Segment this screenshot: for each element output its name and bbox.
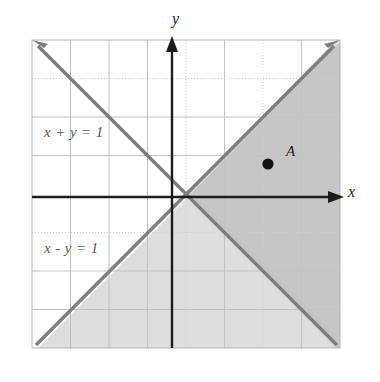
- line-label-x-plus-y: x + y = 1: [44, 124, 104, 141]
- coordinate-plane: [0, 0, 380, 382]
- point-a-label: A: [286, 143, 295, 160]
- line-label-x-minus-y: x - y = 1: [44, 240, 99, 257]
- point-a-marker: [262, 158, 273, 169]
- y-axis-label: y: [172, 10, 179, 28]
- graph-figure: x + y = 1 x - y = 1 y x A: [0, 0, 380, 382]
- x-axis-label: x: [348, 183, 355, 201]
